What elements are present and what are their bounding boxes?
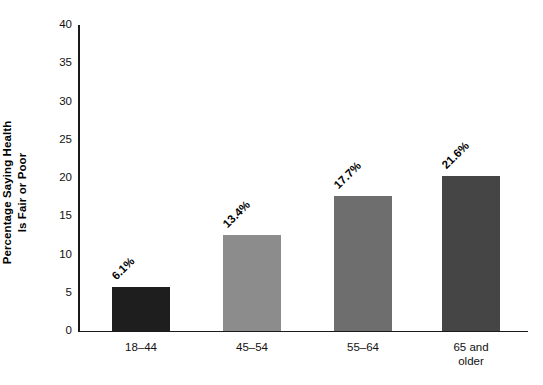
x-axis-category-label: 65 andolder <box>421 340 521 368</box>
bar-value-label: 6.1% <box>110 255 137 282</box>
y-axis-title-line-2: Is Fair or Poor <box>15 121 30 265</box>
y-tick-label: 40 <box>48 19 72 31</box>
x-axis-category-label: 45–54 <box>202 340 302 354</box>
bar-value-label: 21.6% <box>440 140 472 172</box>
bar[interactable] <box>442 176 500 331</box>
bar-column[interactable]: 6.1% <box>112 25 170 331</box>
bar-column[interactable]: 21.6% <box>442 25 500 331</box>
x-axis-category-line: 18–44 <box>91 340 191 354</box>
y-tick-label: 35 <box>48 57 72 69</box>
y-tick-label: 10 <box>48 249 72 261</box>
bar-column[interactable]: 17.7% <box>334 25 392 331</box>
bar[interactable] <box>223 235 281 331</box>
x-axis-category-line: 55–64 <box>313 340 413 354</box>
bar-value-label: 13.4% <box>221 199 253 231</box>
bar-column[interactable]: 13.4% <box>223 25 281 331</box>
bar-chart: Percentage Saying Health Is Fair or Poor… <box>0 0 543 385</box>
plot-area: 6.1%13.4%17.7%21.6% <box>79 25 528 331</box>
y-tick-label: 0 <box>48 325 72 337</box>
x-axis-category-label: 55–64 <box>313 340 413 354</box>
bar-value-label: 17.7% <box>332 160 364 192</box>
y-tick-label: 25 <box>48 134 72 146</box>
y-tick-label: 30 <box>48 96 72 108</box>
y-axis-title-line-1: Percentage Saying Health <box>0 121 15 265</box>
x-axis-category-label: 18–44 <box>91 340 191 354</box>
bar[interactable] <box>112 287 170 331</box>
y-tick-label: 20 <box>48 172 72 184</box>
x-axis-category-line: 65 and <box>421 340 521 354</box>
x-axis-category-line: 45–54 <box>202 340 302 354</box>
bar[interactable] <box>334 196 392 331</box>
y-tick-label: 15 <box>48 210 72 222</box>
y-tick-label: 5 <box>48 287 72 299</box>
x-axis-category-line: older <box>421 354 521 368</box>
